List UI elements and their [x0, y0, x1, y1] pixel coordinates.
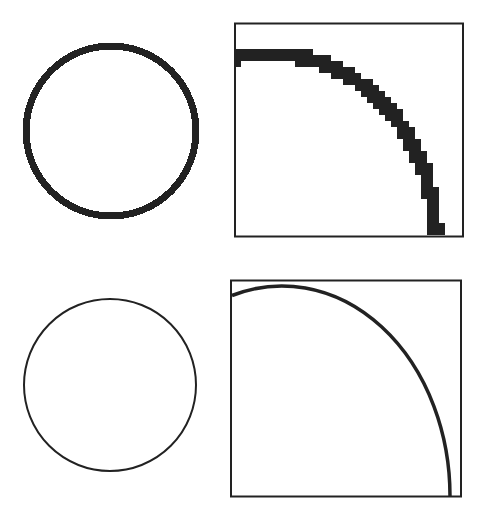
smooth-arc	[232, 286, 450, 496]
aliased-arc	[235, 49, 445, 235]
smooth-arc-zoom-panel	[231, 281, 461, 497]
aliased-circle	[26, 46, 196, 216]
smooth-circle	[24, 299, 196, 471]
figure-canvas	[0, 0, 484, 515]
aliased-arc-zoom-panel	[235, 24, 463, 237]
